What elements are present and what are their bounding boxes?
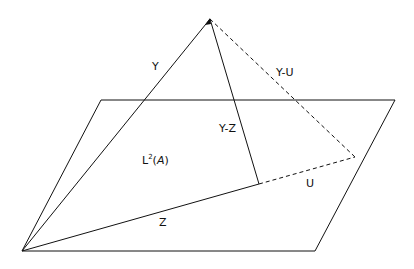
vector-y-minus-z xyxy=(210,19,259,184)
diagram-canvas: Y Y-U Y-Z L2(A) U Z xyxy=(0,0,414,269)
label-z: Z xyxy=(159,216,167,229)
label-u: U xyxy=(306,177,314,190)
vector-z xyxy=(22,184,259,251)
vector-y-minus-u xyxy=(210,19,355,157)
label-l2a: L2(A) xyxy=(142,153,169,167)
plane-l2a xyxy=(22,100,395,251)
label-y-minus-u: Y-U xyxy=(276,66,293,79)
vector-y xyxy=(22,19,210,251)
label-l2a-close: ) xyxy=(164,154,168,167)
projection-diagram xyxy=(0,0,414,269)
label-y: Y xyxy=(152,60,159,73)
label-y-minus-z: Y-Z xyxy=(219,122,236,135)
